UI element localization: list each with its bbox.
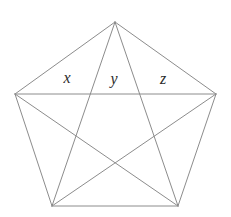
label-x: x: [63, 70, 70, 86]
diagonal-left-to-bottom-right: [15, 94, 178, 206]
label-y: y: [110, 71, 117, 87]
edge-right: [178, 94, 216, 206]
edge-left: [15, 94, 52, 206]
label-z: z: [160, 71, 166, 87]
pentagram-canvas: [0, 0, 231, 217]
diagonal-right-to-bottom-left: [52, 94, 216, 206]
pentagon-diagonals: [15, 22, 216, 206]
pentagon-diagram: xyz: [0, 0, 231, 217]
diagonal-top-to-bottom-left: [52, 22, 115, 206]
diagonal-top-to-bottom-right: [115, 22, 178, 206]
